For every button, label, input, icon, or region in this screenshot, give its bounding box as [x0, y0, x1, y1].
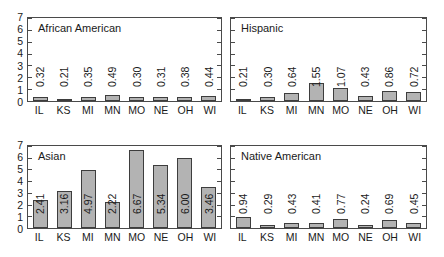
- bar: 3.16: [57, 191, 72, 228]
- bar-slot: 0.45: [402, 146, 426, 228]
- bar-value-label: 5.34: [155, 193, 166, 213]
- bar-slot: 1.07: [329, 18, 353, 101]
- y-axis-tick-label: 6: [17, 24, 23, 35]
- bar-value-label: 0.77: [335, 193, 346, 213]
- x-axis-tick-label: MO: [329, 232, 354, 243]
- bar: 0.94: [236, 217, 251, 228]
- bar: 6.67: [129, 150, 144, 228]
- bar-slot: 0.43: [353, 18, 377, 101]
- bar-value-label: 0.31: [155, 66, 166, 86]
- y-axis-labels: 01234567: [0, 129, 26, 257]
- bar-slot: 0.49: [100, 18, 124, 101]
- bar: 0.21: [236, 99, 251, 101]
- bar-slot: 6.00: [173, 146, 197, 228]
- bar-slot: 0.72: [402, 18, 426, 101]
- bar: 5.34: [153, 165, 168, 228]
- bar-value-label: 0.30: [262, 66, 273, 86]
- bar: 1.07: [333, 88, 348, 101]
- bar: 2.41: [33, 200, 48, 228]
- bar-value-label: 3.46: [204, 193, 215, 213]
- x-axis-labels: ILKSMIMNMONEOHWI: [27, 105, 222, 116]
- bar-value-label: 0.86: [384, 66, 395, 86]
- x-axis-tick-label: MI: [76, 105, 100, 116]
- bar: 0.29: [260, 225, 275, 228]
- plot-frame: Native American0.940.290.430.410.770.240…: [230, 145, 427, 229]
- bar-slot: 0.77: [329, 146, 353, 228]
- bar-value-label: 0.94: [238, 193, 249, 213]
- x-axis-tick-label: OH: [378, 105, 403, 116]
- plot-frame: Asian2.413.164.972.226.675.346.003.46: [27, 145, 222, 229]
- y-axis-tick-label: 4: [17, 176, 23, 187]
- x-axis-tick-label: OH: [173, 105, 197, 116]
- bar-slot: 0.31: [149, 18, 173, 101]
- chart-panel-grid: African American0.320.210.350.490.300.31…: [0, 0, 444, 257]
- bar-value-label: 0.21: [238, 66, 249, 86]
- y-axis-tick-label: 5: [17, 164, 23, 175]
- y-axis-tick: [28, 228, 32, 229]
- x-axis-tick-label: MI: [279, 105, 304, 116]
- bar: 0.86: [382, 91, 397, 101]
- bar: 0.43: [284, 223, 299, 228]
- y-axis-tick: [231, 101, 235, 102]
- bar-value-label: 0.38: [179, 66, 190, 86]
- plot-area: 0.320.210.350.490.300.310.380.44: [28, 18, 221, 101]
- bar-value-label: 3.16: [59, 193, 69, 213]
- x-axis-tick-label: IL: [230, 232, 255, 243]
- bar: 0.30: [129, 97, 144, 101]
- x-axis-tick-label: IL: [27, 232, 51, 243]
- plot-frame: Hispanic0.210.300.641.551.070.430.860.72: [230, 17, 427, 102]
- y-axis-tick-label: 0: [17, 224, 23, 235]
- bar-value-label: 0.29: [262, 193, 273, 213]
- x-axis-tick-label: MO: [125, 105, 149, 116]
- bar-value-label: 0.30: [131, 66, 142, 86]
- x-axis-tick-label: NE: [353, 105, 378, 116]
- bar-slot: 2.41: [28, 146, 52, 228]
- y-axis-tick-label: 3: [17, 60, 23, 70]
- bar-slot: 0.94: [231, 146, 255, 228]
- bar: 0.21: [57, 99, 72, 101]
- bar-slot: 0.29: [255, 146, 279, 228]
- x-axis-tick-label: WI: [402, 105, 427, 116]
- bar: 0.38: [177, 97, 192, 102]
- bar: 0.64: [284, 93, 299, 101]
- bar-value-label: 0.69: [384, 193, 395, 213]
- x-axis-tick-label: MN: [100, 232, 124, 243]
- bar-slot: 3.16: [52, 146, 76, 228]
- x-axis-tick-label: OH: [378, 232, 403, 243]
- x-axis-tick-label: MN: [100, 105, 124, 116]
- bar: 0.69: [382, 220, 397, 228]
- x-axis-tick-label: IL: [27, 105, 51, 116]
- bar-slot: 0.41: [304, 146, 328, 228]
- x-axis-tick-label: WI: [402, 232, 427, 243]
- bar-value-label: 0.49: [107, 66, 118, 86]
- x-axis-tick-label: MN: [304, 105, 329, 116]
- chart-panel-hispanic: Hispanic0.210.300.641.551.070.430.860.72…: [222, 0, 444, 129]
- bar-value-label: 2.22: [107, 193, 118, 213]
- y-axis-tick-label: 7: [17, 140, 23, 151]
- x-axis-tick-label: MI: [279, 232, 304, 243]
- bar: 0.77: [333, 219, 348, 228]
- x-axis-tick-label: NE: [353, 232, 378, 243]
- y-axis-tick: [422, 228, 426, 229]
- bar: 4.97: [81, 170, 96, 228]
- y-axis-tick-label: 5: [17, 36, 23, 47]
- x-axis-tick-label: NE: [149, 232, 173, 243]
- bar-slot: 0.35: [76, 18, 100, 101]
- x-axis-tick-label: MN: [304, 232, 329, 243]
- y-axis-tick-label: 4: [17, 48, 23, 59]
- y-axis-tick: [422, 101, 426, 102]
- bar-slot: 0.21: [231, 18, 255, 101]
- bar: 0.44: [201, 96, 216, 101]
- bar-slot: 2.22: [100, 146, 124, 228]
- bar-slot: 0.64: [280, 18, 304, 101]
- bar-value-label: 6.00: [179, 193, 190, 213]
- chart-panel-native-american: Native American0.940.290.430.410.770.240…: [222, 129, 444, 257]
- bar: 6.00: [177, 158, 192, 228]
- bar-slot: 0.44: [197, 18, 221, 101]
- bar: 0.41: [309, 223, 324, 228]
- bar: 1.55: [309, 83, 324, 101]
- bar: 2.22: [105, 202, 120, 228]
- y-axis-tick: [217, 101, 221, 102]
- x-axis-tick-label: KS: [255, 105, 280, 116]
- bar-slot: 0.30: [125, 18, 149, 101]
